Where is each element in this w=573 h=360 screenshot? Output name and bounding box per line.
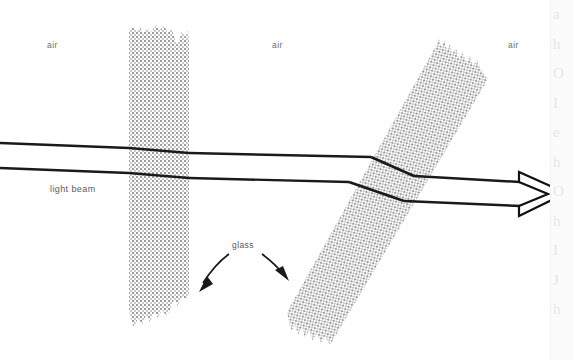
refraction-figure: air air air light beam glass a h O I e h… [0,0,573,360]
bleed-line: J [551,266,573,296]
label-air-middle: air [272,40,283,50]
bleed-line: O [551,177,573,207]
label-glass: glass [232,240,254,250]
bleed-line: I [551,236,573,266]
bleed-line: I [551,89,573,119]
page-edge-bleed-text: a h O I e h O h I J h [550,0,573,360]
bleed-line: h [551,207,573,237]
bleed-line: h [551,30,573,60]
bleed-line: e [551,118,573,148]
glass-pointer-left-arrow [199,254,229,292]
figure-canvas [0,0,573,360]
glass-slab-right [287,38,488,345]
glass-pointer-right-arrow [262,254,289,281]
label-air-left: air [47,40,58,50]
label-light-beam: light beam [50,184,96,194]
bleed-line: a [551,0,573,30]
bleed-line: O [551,59,573,89]
label-air-right: air [508,40,519,50]
bleed-line: h [551,295,573,325]
bleed-line: h [551,148,573,178]
